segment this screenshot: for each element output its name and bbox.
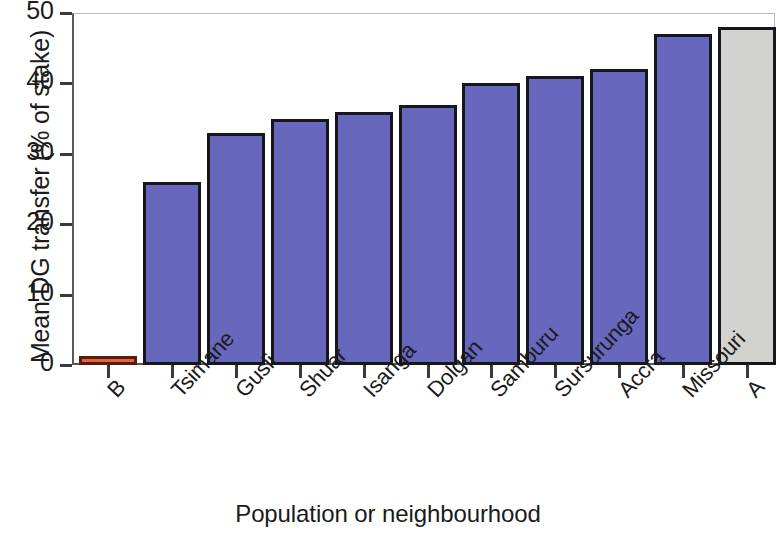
y-tick-mark <box>60 82 72 85</box>
y-tick-label: 40 <box>2 66 54 95</box>
y-tick-mark <box>60 12 72 15</box>
bar-isanga <box>335 112 393 365</box>
x-axis-title: Population or neighbourhood <box>0 500 776 528</box>
bar-b <box>79 356 137 365</box>
x-tick-label-a: A <box>741 374 770 402</box>
y-tick-label: 10 <box>2 278 54 307</box>
bar-dolgan <box>399 105 457 365</box>
y-tick-mark <box>60 153 72 156</box>
bar-missouri <box>654 34 712 365</box>
bar-chart-figure: Mean DG transfer (% of stake) 0102030405… <box>0 0 776 534</box>
bar-sursurunga <box>526 76 584 365</box>
bar-shuar <box>271 119 329 365</box>
y-tick-mark <box>60 364 72 367</box>
y-tick-mark <box>60 294 72 297</box>
bar-series <box>72 13 775 365</box>
bar-a <box>718 27 776 365</box>
bar-tsimane <box>143 182 201 365</box>
y-tick-label: 0 <box>2 348 54 377</box>
bar-samburu <box>462 83 520 365</box>
y-tick-label: 30 <box>2 137 54 166</box>
y-tick-label: 20 <box>2 207 54 236</box>
y-axis-title: Mean DG transfer (% of stake) <box>26 0 55 397</box>
y-tick-label: 50 <box>2 0 54 25</box>
x-tick-label-b: B <box>102 374 131 402</box>
y-tick-mark <box>60 223 72 226</box>
